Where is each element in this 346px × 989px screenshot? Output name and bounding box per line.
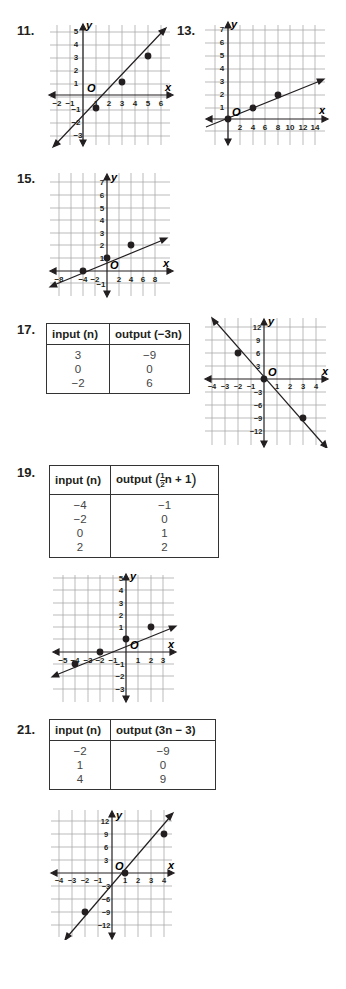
graph-exercise-19: y x O 54321 −1−2−3 −5−4−3−2−1 123	[48, 570, 180, 705]
svg-text:4: 4	[251, 123, 256, 132]
svg-text:12: 12	[101, 817, 109, 826]
svg-text:−6: −6	[254, 401, 263, 410]
function-table-21: input (n) output (3n − 3) −2−9 10 49	[49, 719, 216, 790]
svg-text:y: y	[110, 171, 118, 183]
svg-text:−2: −2	[234, 382, 243, 391]
svg-text:−8: −8	[54, 275, 64, 284]
svg-text:−6: −6	[102, 895, 111, 904]
svg-text:O: O	[115, 860, 124, 872]
svg-text:−3: −3	[221, 382, 230, 391]
svg-text:5: 5	[220, 51, 225, 60]
table-row: 22	[50, 540, 219, 558]
svg-text:x: x	[167, 638, 175, 650]
svg-text:−3: −3	[115, 685, 125, 694]
svg-text:2: 2	[149, 656, 154, 665]
svg-text:−1: −1	[108, 656, 118, 665]
svg-text:O: O	[110, 259, 119, 271]
svg-text:4: 4	[314, 382, 319, 391]
table-row: −20	[50, 512, 219, 526]
svg-text:4: 4	[74, 40, 79, 49]
svg-text:12: 12	[253, 323, 261, 332]
svg-text:12: 12	[299, 123, 308, 132]
svg-text:3: 3	[161, 656, 166, 665]
svg-text:1: 1	[94, 99, 99, 108]
exercise-number-11: 11.	[17, 23, 34, 38]
svg-text:2: 2	[119, 611, 124, 620]
svg-text:−1: −1	[65, 99, 75, 108]
svg-text:2: 2	[220, 90, 225, 99]
svg-text:6: 6	[256, 349, 260, 358]
svg-text:1: 1	[220, 103, 225, 112]
table-header-output: output (12n + 1)	[111, 466, 219, 495]
svg-text:−4: −4	[208, 382, 217, 391]
svg-text:1: 1	[74, 79, 79, 88]
svg-text:−1: −1	[247, 382, 256, 391]
exercise-number-15: 15.	[17, 171, 35, 186]
svg-text:3: 3	[220, 77, 225, 86]
svg-text:8: 8	[153, 275, 158, 284]
table-header-input: input (n)	[50, 466, 111, 495]
svg-text:4: 4	[100, 216, 105, 225]
svg-text:−9: −9	[102, 908, 111, 917]
graph-exercise-13: y x O 7654 321 2468 101214	[200, 20, 330, 150]
svg-text:−3: −3	[102, 882, 111, 891]
svg-text:−3: −3	[73, 131, 83, 140]
svg-text:x: x	[167, 859, 175, 871]
table-row: −2−9	[50, 741, 216, 759]
svg-text:5: 5	[74, 27, 79, 36]
svg-text:6: 6	[104, 843, 108, 852]
table-header-output: output (−3n)	[110, 324, 190, 345]
graph-exercise-15: y x O 7654 321−1 −8−4−2 2468	[45, 168, 175, 300]
svg-text:−2: −2	[115, 672, 125, 681]
svg-text:1: 1	[119, 623, 124, 632]
svg-text:7: 7	[220, 25, 225, 34]
svg-text:O: O	[232, 106, 241, 118]
svg-text:x: x	[318, 104, 326, 116]
svg-text:O: O	[130, 639, 139, 651]
svg-text:4: 4	[129, 275, 134, 284]
svg-text:−5: −5	[58, 656, 68, 665]
svg-text:2: 2	[136, 876, 140, 885]
svg-text:O: O	[87, 82, 96, 94]
svg-text:−4: −4	[55, 876, 64, 885]
svg-text:6: 6	[159, 99, 164, 108]
table-row: 00	[47, 362, 190, 376]
svg-text:1: 1	[275, 382, 279, 391]
svg-text:6: 6	[220, 38, 225, 47]
svg-text:3: 3	[74, 53, 79, 62]
svg-text:3: 3	[100, 229, 105, 238]
table-row: 10	[50, 758, 216, 772]
svg-text:3: 3	[301, 382, 305, 391]
svg-text:5: 5	[146, 99, 151, 108]
svg-text:2: 2	[288, 382, 292, 391]
svg-text:x: x	[164, 81, 172, 93]
svg-text:5: 5	[100, 204, 105, 213]
svg-text:−12: −12	[250, 427, 263, 436]
svg-text:3: 3	[104, 856, 108, 865]
svg-text:−4: −4	[70, 656, 80, 665]
svg-text:6: 6	[263, 123, 268, 132]
svg-text:9: 9	[256, 336, 260, 345]
svg-text:6: 6	[141, 275, 146, 284]
table-header-input: input (n)	[47, 324, 110, 345]
svg-text:1: 1	[136, 656, 141, 665]
svg-text:−2: −2	[71, 118, 81, 127]
svg-text:1: 1	[123, 876, 127, 885]
exercise-number-21: 21.	[17, 722, 35, 737]
svg-text:−1: −1	[94, 876, 103, 885]
svg-text:4: 4	[119, 586, 124, 595]
svg-text:−9: −9	[254, 414, 263, 423]
svg-text:2: 2	[238, 123, 243, 132]
svg-text:7: 7	[100, 178, 105, 187]
svg-text:1: 1	[100, 254, 105, 263]
svg-text:3: 3	[149, 876, 153, 885]
exercise-number-19: 19.	[17, 465, 35, 480]
svg-text:−3: −3	[83, 656, 93, 665]
table-row: 49	[50, 772, 216, 790]
svg-text:5: 5	[119, 574, 124, 583]
svg-text:−12: −12	[98, 921, 111, 930]
svg-text:−3: −3	[68, 876, 77, 885]
svg-text:y: y	[129, 570, 137, 582]
graph-exercise-17: y x O 12963 −3−6−9−12 −4−3−2−1 1234	[200, 313, 332, 448]
svg-text:9: 9	[104, 830, 108, 839]
